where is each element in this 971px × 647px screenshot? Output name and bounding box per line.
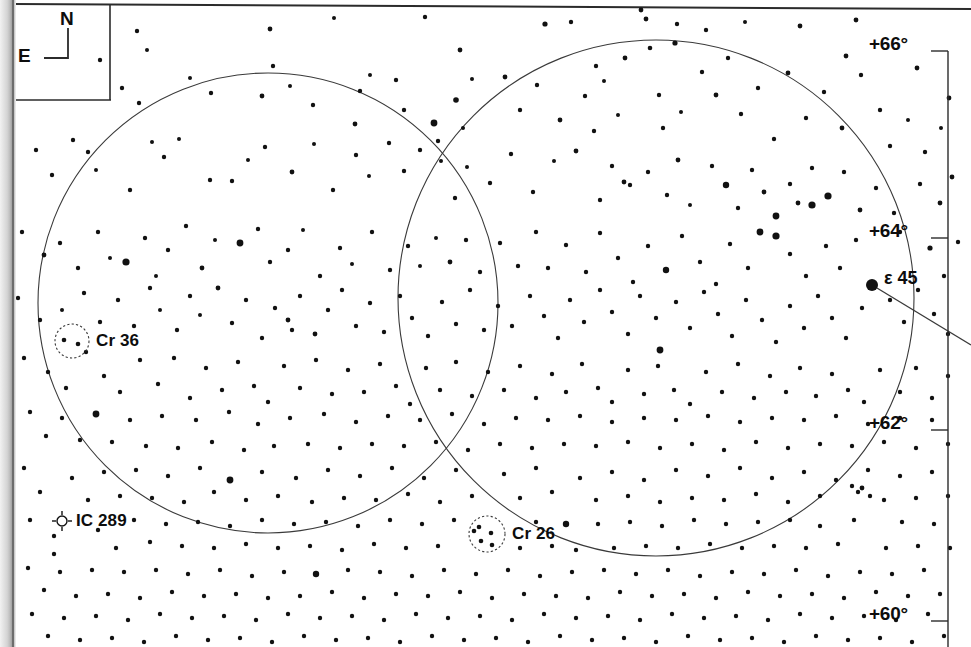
star-dot <box>859 73 863 77</box>
star-dot <box>184 224 188 228</box>
star-dot <box>762 190 767 195</box>
star-dot <box>882 498 886 502</box>
star-dot <box>716 312 720 316</box>
star-dot <box>675 22 679 26</box>
star-dot <box>38 490 42 494</box>
declination-label: +64° <box>869 220 908 242</box>
star-dot <box>209 91 213 95</box>
star-dot <box>390 466 394 470</box>
star-dot <box>534 230 538 234</box>
star-dot <box>28 518 32 522</box>
star-dot <box>754 440 758 444</box>
star-dot <box>784 390 788 394</box>
star-dot <box>564 390 568 394</box>
star-dot <box>116 298 120 302</box>
star-dot <box>736 362 740 366</box>
star-dot <box>466 448 470 452</box>
compass-east-label: E <box>18 45 31 67</box>
star-dot <box>802 418 806 422</box>
star-dot <box>804 546 808 550</box>
star-dot <box>824 244 828 248</box>
star-dot <box>562 442 566 446</box>
star-dot <box>270 640 274 644</box>
star-dot <box>610 420 614 424</box>
star-dot <box>378 362 382 366</box>
star-dot <box>858 570 862 574</box>
star-dot <box>196 520 200 524</box>
star-dot <box>334 638 338 642</box>
star-dot <box>326 468 330 472</box>
star-dot <box>188 294 192 298</box>
star-dot <box>756 86 760 90</box>
star-dot <box>686 634 690 638</box>
star-dot <box>654 640 658 644</box>
star-dot <box>22 466 26 470</box>
star-dot <box>114 546 118 550</box>
star-dot <box>665 193 669 197</box>
star-dot <box>242 448 246 452</box>
star-dot <box>570 570 574 574</box>
star-dot <box>884 546 888 550</box>
star-dot <box>752 396 756 400</box>
star-dot <box>942 634 946 638</box>
star-dot <box>830 372 834 376</box>
star-dot <box>368 73 372 77</box>
star-dot <box>98 320 102 324</box>
star-dot <box>738 420 742 424</box>
star-dot <box>666 568 670 572</box>
star-dot <box>730 570 734 574</box>
star-dot <box>714 93 719 98</box>
star-dot <box>135 29 139 33</box>
star-dot <box>736 206 740 210</box>
star-dot <box>930 418 934 422</box>
star-dot <box>237 240 244 247</box>
star-dot <box>722 448 726 452</box>
star-dot <box>688 402 692 406</box>
star-dot <box>915 66 920 71</box>
star-field <box>16 8 960 645</box>
field-of-view-circle-left <box>38 73 498 533</box>
star-dot <box>98 58 102 62</box>
star-dot <box>926 612 930 616</box>
star-dot <box>410 316 414 320</box>
star-dot <box>170 590 174 594</box>
star-dot <box>610 470 614 474</box>
star-dot <box>208 178 212 182</box>
star-dot <box>244 298 248 302</box>
star-dot <box>858 208 863 213</box>
star-dot <box>626 368 630 372</box>
star-dot <box>144 444 148 448</box>
star-dot <box>734 614 738 618</box>
star-dot <box>502 388 506 392</box>
star-dot <box>143 236 147 240</box>
dso-label-cr-26: Cr 26 <box>512 524 555 544</box>
star-dot <box>94 614 98 618</box>
star-dot <box>824 192 831 199</box>
star-dot <box>256 227 260 231</box>
star-dot <box>868 494 872 498</box>
star-dot <box>362 390 366 394</box>
star-dot <box>808 201 815 208</box>
star-dot <box>478 614 482 618</box>
star-dot <box>260 94 265 99</box>
star-dot <box>254 618 258 622</box>
star-dot <box>188 76 192 80</box>
star-dot <box>628 183 632 187</box>
star-dot <box>927 245 932 250</box>
star-dot <box>932 312 936 316</box>
star-dot <box>898 474 902 478</box>
star-dot <box>122 258 129 265</box>
star-dot <box>406 492 410 496</box>
compass-north-label: N <box>60 8 74 30</box>
star-dot <box>266 596 270 600</box>
star-dot <box>338 446 342 450</box>
star-dot <box>402 108 406 112</box>
star-dot <box>860 486 865 491</box>
star-dot <box>71 138 75 142</box>
star-dot <box>714 596 718 600</box>
star-dot <box>657 93 661 97</box>
star-dot <box>388 268 392 272</box>
star-dot <box>227 410 231 414</box>
constellation-lines <box>872 285 971 345</box>
star-dot <box>156 382 160 386</box>
